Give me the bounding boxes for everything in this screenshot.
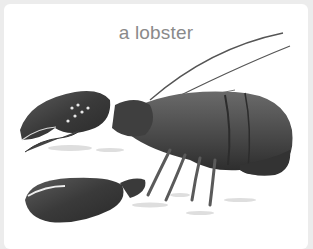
lobster-image [4, 4, 308, 249]
image-card: a lobster [4, 4, 308, 249]
